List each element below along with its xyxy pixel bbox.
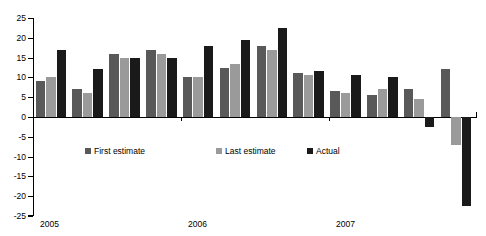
- chart-legend: First estimate Last estimate Actual: [0, 146, 486, 160]
- x-axis-end-cap: [476, 112, 477, 118]
- bar-first: [367, 95, 377, 117]
- x-axis-year-separator: [329, 117, 330, 121]
- bar-last: [451, 117, 461, 145]
- bar-first: [257, 46, 267, 117]
- bar-last: [341, 93, 351, 117]
- x-axis-label-2005: 2005: [40, 219, 59, 229]
- bar-last: [83, 93, 93, 117]
- legend-item-last-estimate: Last estimate: [216, 146, 276, 156]
- y-axis-tick: [28, 77, 33, 78]
- y-axis-tick-label: 10: [17, 73, 26, 81]
- bar-first: [441, 69, 451, 117]
- legend-label-first-estimate: First estimate: [94, 146, 145, 156]
- bar-last: [230, 64, 240, 117]
- y-axis-tick-label: 15: [17, 54, 26, 62]
- bars-layer: [34, 18, 476, 215]
- legend-swatch-last-estimate: [216, 148, 222, 154]
- legend-swatch-actual: [307, 148, 313, 154]
- bar-chart: 2520151050-5-10-15-20-25 First estimate …: [0, 0, 486, 236]
- bar-last: [46, 77, 56, 117]
- x-axis-year-labels: 2005 2006 2007: [0, 215, 486, 236]
- bar-last: [120, 58, 130, 117]
- bar-actual: [388, 77, 398, 117]
- bar-last: [193, 77, 203, 117]
- bar-actual: [130, 58, 140, 117]
- legend-swatch-first-estimate: [85, 148, 91, 154]
- legend-label-actual: Actual: [316, 146, 340, 156]
- bar-actual: [57, 50, 67, 117]
- y-axis-tick: [28, 58, 33, 59]
- y-axis-tick: [28, 18, 33, 19]
- bar-actual: [167, 58, 177, 117]
- y-axis-tick-label: 20: [17, 34, 26, 42]
- bar-last: [157, 54, 167, 117]
- y-axis-tick-label: 5: [21, 93, 26, 101]
- y-axis-tick: [28, 137, 33, 138]
- y-axis-tick-label: -5: [18, 133, 26, 141]
- y-axis-tick: [28, 216, 33, 217]
- bar-first: [36, 81, 46, 117]
- bar-actual: [314, 71, 324, 117]
- bar-actual: [204, 46, 214, 117]
- bar-actual: [241, 40, 251, 117]
- bar-last: [267, 50, 277, 117]
- bar-actual: [462, 117, 472, 206]
- bar-first: [404, 89, 414, 117]
- bar-first: [293, 73, 303, 117]
- bar-last: [378, 89, 388, 117]
- bar-first: [330, 91, 340, 117]
- legend-item-first-estimate: First estimate: [85, 146, 145, 156]
- bar-first: [146, 50, 156, 117]
- bar-last: [414, 99, 424, 117]
- y-axis-tick-label: -20: [14, 192, 26, 200]
- x-axis-label-2006: 2006: [188, 219, 207, 229]
- bar-actual: [278, 28, 288, 117]
- y-axis-tick: [28, 97, 33, 98]
- y-axis-tick-label: -15: [14, 172, 26, 180]
- y-axis-tick-label: 0: [21, 113, 26, 121]
- y-axis-tick: [28, 176, 33, 177]
- y-axis-tick: [28, 157, 33, 158]
- x-axis-label-2007: 2007: [336, 219, 355, 229]
- legend-label-last-estimate: Last estimate: [225, 146, 276, 156]
- bar-first: [72, 89, 82, 117]
- bar-actual: [93, 69, 103, 117]
- y-axis-tick: [28, 117, 33, 118]
- x-axis-year-separator: [181, 117, 182, 121]
- bar-first: [109, 54, 119, 117]
- bar-actual: [425, 117, 435, 127]
- y-axis-tick: [28, 38, 33, 39]
- bar-last: [304, 75, 314, 117]
- bar-actual: [351, 75, 361, 117]
- bar-first: [183, 77, 193, 117]
- y-axis-labels: 2520151050-5-10-15-20-25: [0, 0, 26, 236]
- y-axis-tick: [28, 196, 33, 197]
- bar-first: [220, 68, 230, 118]
- legend-item-actual: Actual: [307, 146, 340, 156]
- y-axis-tick-label: 25: [17, 14, 26, 22]
